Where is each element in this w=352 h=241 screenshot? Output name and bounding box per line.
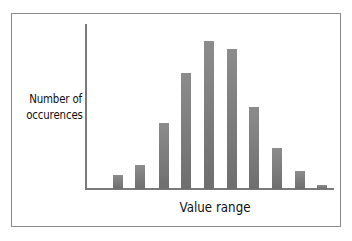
bar-2 (135, 165, 145, 189)
y-axis-label: Number of occurences (26, 91, 82, 123)
y-axis-label-line-2: occurences (26, 107, 82, 123)
bar-8 (272, 148, 282, 189)
bar-9 (295, 171, 305, 189)
bar-3 (159, 123, 169, 189)
bar-7 (249, 107, 259, 189)
bar-5 (204, 41, 214, 189)
bar-4 (181, 73, 191, 189)
bar-10 (317, 185, 327, 189)
bar-6 (227, 49, 237, 189)
y-axis-line (85, 24, 87, 189)
y-axis-label-line-1: Number of (26, 91, 82, 107)
x-axis-label: Value range (168, 198, 262, 216)
bar-1 (113, 175, 123, 189)
